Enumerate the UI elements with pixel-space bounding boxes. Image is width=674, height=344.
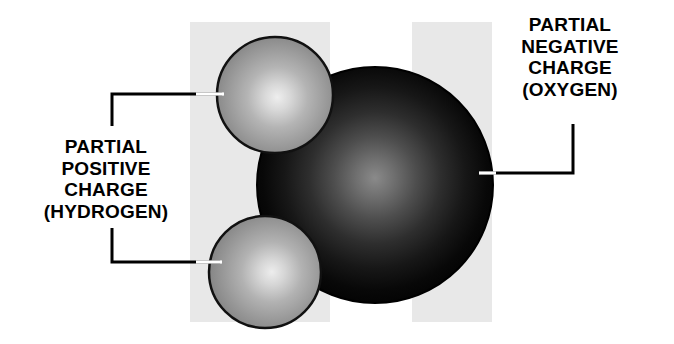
label-positive-line-4: (HYDROGEN) — [0, 201, 212, 223]
label-positive-line-3: CHARGE — [0, 179, 212, 201]
hydrogen-atom-top-sphere — [217, 37, 333, 153]
label-negative-line-2: NEGATIVE — [466, 36, 674, 58]
label-positive-line-2: POSITIVE — [0, 158, 212, 180]
partial-negative-charge-label: PARTIAL NEGATIVE CHARGE (OXYGEN) — [466, 14, 674, 100]
hydrogen-atom-bottom-sphere — [209, 216, 321, 328]
label-negative-line-1: PARTIAL — [466, 14, 674, 36]
label-positive-line-1: PARTIAL — [0, 136, 212, 158]
label-negative-line-4: (OXYGEN) — [466, 79, 674, 101]
label-negative-line-3: CHARGE — [466, 57, 674, 79]
partial-positive-charge-label: PARTIAL POSITIVE CHARGE (HYDROGEN) — [0, 136, 212, 222]
diagram-canvas: PARTIAL POSITIVE CHARGE (HYDROGEN) PARTI… — [0, 0, 674, 344]
